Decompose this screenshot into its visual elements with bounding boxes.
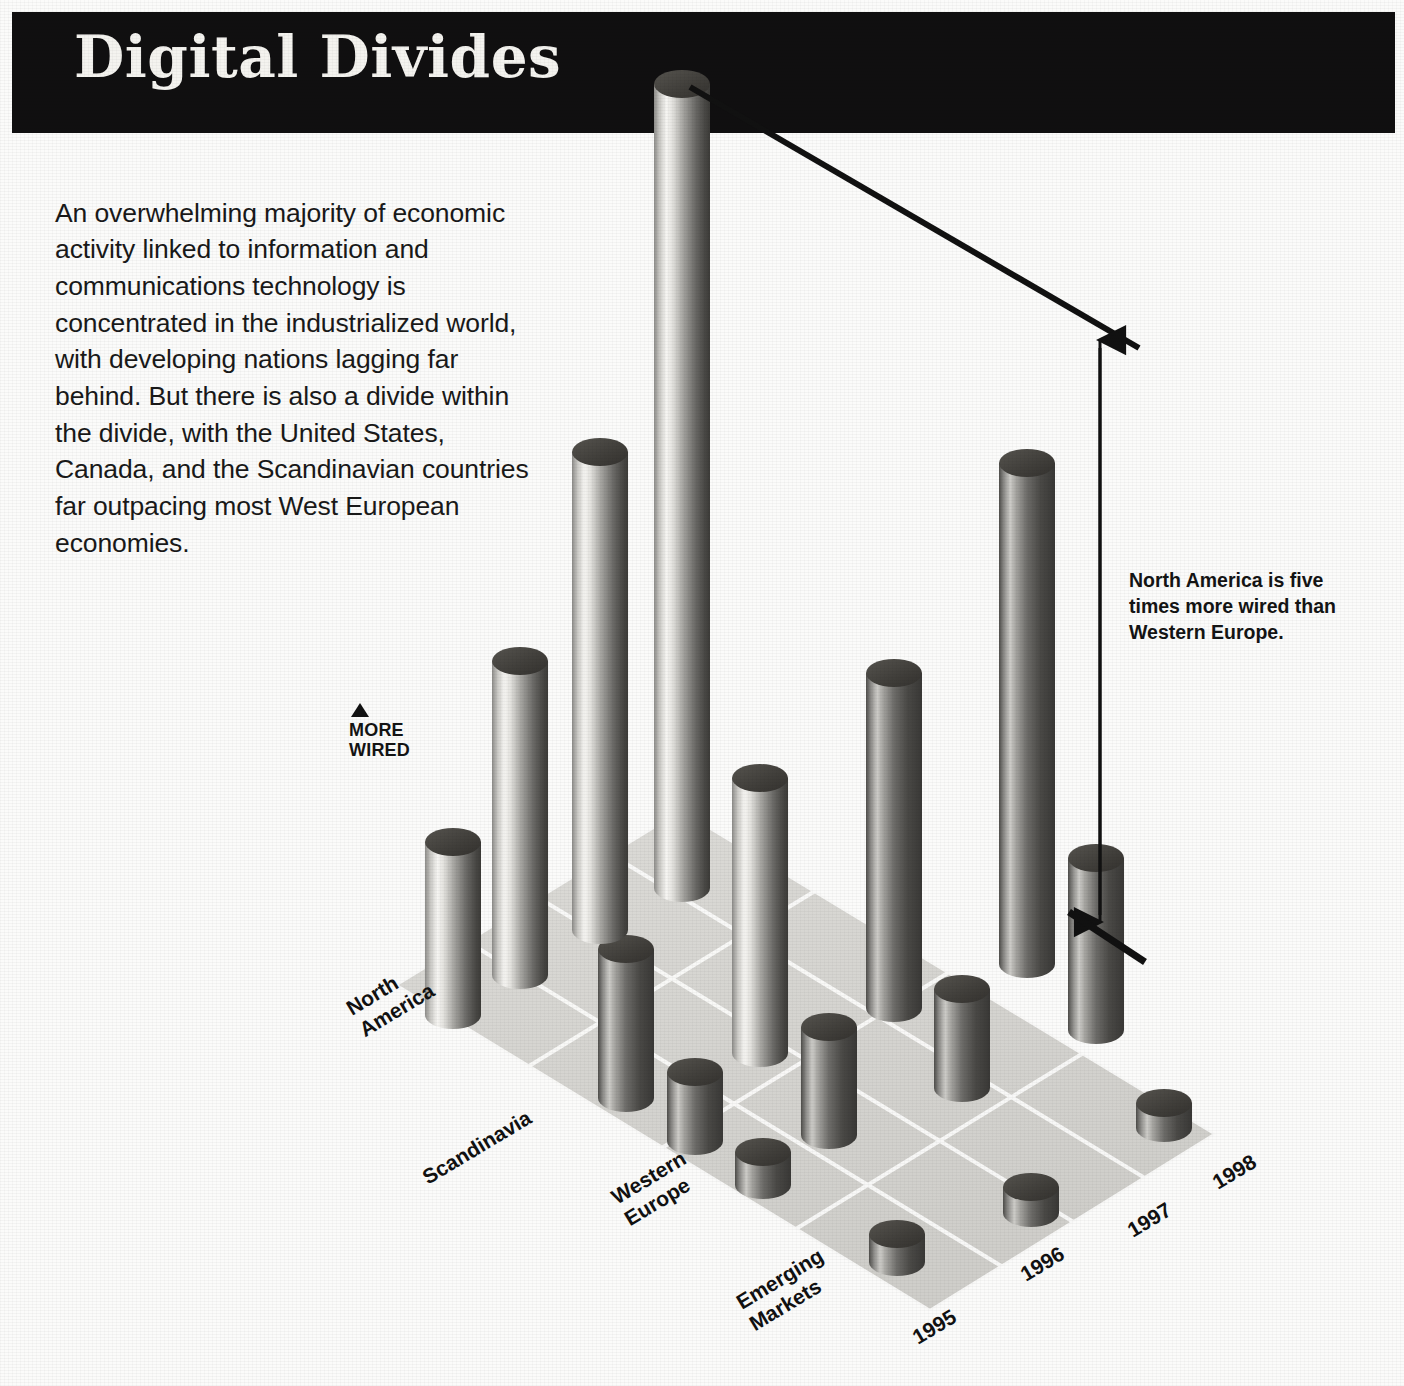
annotation-layer: [0, 0, 1404, 1386]
leader-line: [690, 87, 1139, 348]
measure-base-tick: [1069, 912, 1145, 962]
